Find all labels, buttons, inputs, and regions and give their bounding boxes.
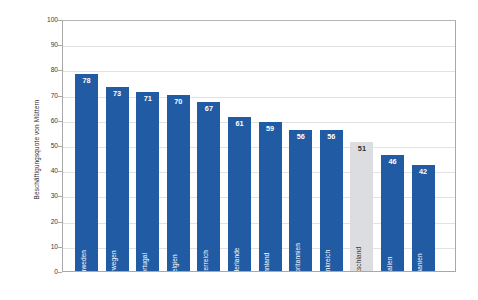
bar-finnland[interactable]: 59Finnland [259, 122, 282, 271]
bar-category-label: Portugal [141, 252, 148, 272]
gridline [63, 46, 455, 47]
bar-value-label: 73 [106, 90, 129, 97]
bar-großbritannien[interactable]: 56Großbritannien [289, 130, 312, 271]
bar-chart: Beschäftigungsquote von Müttern 10090807… [0, 0, 478, 300]
bar-schweden[interactable]: 78Schweden [75, 74, 98, 271]
y-tick-mark [57, 272, 62, 273]
bar-category-label: Spanien [417, 253, 424, 272]
bar-deutschland[interactable]: 51Deutschland [350, 142, 373, 271]
bar-category-label: Deutschland [355, 246, 362, 272]
bar-category-label: Niederlande [233, 247, 240, 272]
bar-category-label: Schweden [80, 249, 87, 272]
bar-value-label: 61 [228, 120, 251, 127]
bar-spanien[interactable]: 42Spanien [412, 165, 435, 271]
bar-category-label: Belgien [172, 254, 179, 272]
bar-value-label: 70 [167, 98, 190, 105]
bar-norwegen[interactable]: 73Norwegen [106, 87, 129, 271]
bar-category-label: Frankreich [325, 249, 332, 272]
bar-italien[interactable]: 46Italien [381, 155, 404, 271]
bar-value-label: 51 [350, 145, 373, 152]
bar-portugal[interactable]: 71Portugal [136, 92, 159, 271]
bar-belgien[interactable]: 70Belgien [167, 95, 190, 271]
bar-value-label: 46 [381, 158, 404, 165]
bar-value-label: 67 [197, 105, 220, 112]
bar-value-label: 71 [136, 95, 159, 102]
gridline [63, 71, 455, 72]
bar-value-label: 59 [259, 125, 282, 132]
bar-frankreich[interactable]: 56Frankreich [320, 130, 343, 271]
bar-value-label: 78 [75, 77, 98, 84]
bar-category-label: Großbritannien [294, 243, 301, 272]
bar-österreich[interactable]: 67Österreich [197, 102, 220, 271]
bar-category-label: Finnland [264, 252, 271, 272]
bar-category-label: Norwegen [111, 250, 118, 272]
bar-category-label: Österreich [202, 250, 209, 272]
bar-value-label: 56 [320, 133, 343, 140]
bar-value-label: 56 [289, 133, 312, 140]
plot-area: 78Schweden73Norwegen71Portugal70Belgien6… [62, 20, 456, 272]
bar-niederlande[interactable]: 61Niederlande [228, 117, 251, 271]
bar-category-label: Italien [386, 256, 393, 272]
bar-value-label: 42 [412, 168, 435, 175]
